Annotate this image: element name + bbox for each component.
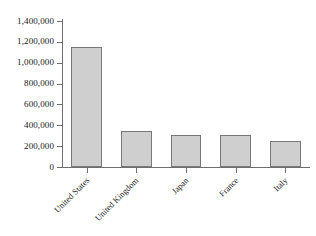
x-category-label: France xyxy=(217,176,240,199)
x-tick-mark xyxy=(136,168,137,173)
bar xyxy=(71,47,102,167)
x-category-label: United Kingdom xyxy=(94,176,141,223)
bar-chart: 0200,000400,000600,000800,0001,000,0001,… xyxy=(0,0,316,236)
y-tick-mark xyxy=(57,63,62,64)
y-tick-label: 400,000 xyxy=(24,121,54,130)
y-tick-label: 800,000 xyxy=(24,79,54,88)
x-tick-mark xyxy=(186,168,187,173)
y-tick-mark xyxy=(57,84,62,85)
bar xyxy=(171,135,202,167)
y-tick-label: 0 xyxy=(49,163,54,172)
y-tick-mark xyxy=(57,42,62,43)
y-tick-mark xyxy=(57,21,62,22)
y-tick-label: 1,400,000 xyxy=(17,17,54,26)
bar xyxy=(270,141,301,167)
bar xyxy=(220,135,251,167)
y-axis-line xyxy=(62,19,63,168)
x-category-label: Japan xyxy=(170,176,190,196)
y-tick-mark xyxy=(57,146,62,147)
x-category-label: United States xyxy=(53,176,92,215)
y-tick-mark xyxy=(57,104,62,105)
y-tick-mark xyxy=(57,125,62,126)
x-tick-mark xyxy=(236,168,237,173)
x-tick-mark xyxy=(87,168,88,173)
y-tick-label: 600,000 xyxy=(24,100,54,109)
y-tick-label: 1,200,000 xyxy=(17,37,54,46)
x-category-label: Italy xyxy=(272,176,289,193)
x-tick-mark xyxy=(285,168,286,173)
bar xyxy=(121,131,152,167)
y-tick-mark xyxy=(57,167,62,168)
y-tick-label: 200,000 xyxy=(24,142,54,151)
y-tick-label: 1,000,000 xyxy=(17,58,54,67)
